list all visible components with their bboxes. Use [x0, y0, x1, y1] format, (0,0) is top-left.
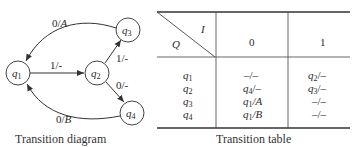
table-row: q4 q1/B –/–	[183, 108, 327, 122]
state-q2: q2	[85, 61, 109, 85]
svg-text:q2/–: q2/–	[308, 69, 327, 83]
svg-text:q2: q2	[183, 82, 193, 96]
edge-label-q2-q4: 0/-	[116, 79, 129, 91]
svg-text:q4: q4	[183, 108, 193, 122]
edge-label-q2-q3: 1/-	[116, 52, 129, 64]
svg-text:–/–: –/–	[311, 95, 327, 107]
diagram-caption: Transition diagram	[15, 132, 107, 146]
table-row: q3 q1/A –/–	[183, 95, 327, 109]
state-q4: q4	[120, 101, 144, 125]
edge-label-q4-q1: 0/B	[56, 113, 72, 125]
svg-text:q3/–: q3/–	[308, 82, 327, 96]
edge-q3-q1	[26, 23, 116, 61]
state-q3: q3	[116, 18, 140, 42]
edge-label-q3-q1: 0/A	[52, 17, 68, 29]
table-caption: Transition table	[216, 132, 291, 146]
edge-label-q1-q2: 1/-	[50, 59, 63, 71]
table-row: q1 –/– q2/–	[183, 69, 327, 83]
corner-input-label: I	[200, 23, 206, 35]
column-header-1: 1	[320, 36, 326, 48]
svg-text:q1/A: q1/A	[243, 95, 263, 109]
corner-state-label: Q	[172, 38, 180, 50]
svg-text:–/–: –/–	[311, 108, 327, 120]
table-row: q2 q4/– q3/–	[183, 82, 327, 96]
transition-diagram: 1/- 1/- 0/- 0/A 0/B q1 q2 q3 q4 Transiti…	[6, 17, 144, 146]
state-q1: q1	[6, 61, 30, 85]
svg-text:q1/B: q1/B	[243, 108, 263, 122]
transition-table: I Q 0 1 q1 –/– q2/– q2 q4/– q3/– q3 q1/A…	[157, 12, 350, 146]
corner-diagonal	[157, 12, 215, 57]
column-header-0: 0	[249, 36, 255, 48]
svg-text:q1: q1	[183, 69, 193, 83]
figure: 1/- 1/- 0/- 0/A 0/B q1 q2 q3 q4 Transiti…	[0, 0, 353, 147]
svg-text:q3: q3	[183, 95, 193, 109]
svg-text:–/–: –/–	[243, 69, 259, 81]
edge-q4-q1	[27, 84, 120, 119]
svg-text:q4/–: q4/–	[243, 82, 262, 96]
